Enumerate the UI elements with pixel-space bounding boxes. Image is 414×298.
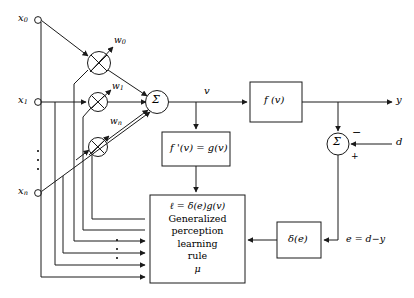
input-terminal-x1 [35,99,42,106]
perceptron-block-diagram: x0 x1 xn w0 w1 wn Σ v f (v) y − + Σ d e … [0,0,414,298]
input-terminal-x0 [35,17,42,24]
learning-rule-line-4: rule [150,250,245,263]
input-ellipsis [36,150,40,170]
error-summation-symbol: Σ [333,136,341,147]
activation-block-label: f (v) [264,95,284,105]
summation-symbol: Σ [152,94,160,105]
learning-rule-line-5: μ [150,263,245,276]
signal-label-v: v [204,86,210,96]
learning-rule-line-0: ℓ = δ(e)g(v) [150,200,245,213]
learning-rule-line-2: perception [150,225,245,238]
derivative-block-label: f '(v) = g(v) [170,143,228,153]
weight-label-w1: w1 [112,82,124,92]
feedback-ellipsis [115,239,119,259]
error-expression-label: e = d−y [346,234,385,244]
error-sum-minus-sign: − [352,127,361,138]
learning-rule-text: ℓ = δ(e)g(v) Generalized perception lear… [150,200,245,275]
wire-mult0-feedback-diag [74,70,88,84]
learning-rule-line-3: learning [150,238,245,251]
input-label-x0: x0 [18,13,28,24]
error-sum-plus-sign: + [351,152,359,161]
desired-label-d: d [396,137,402,147]
wire-x0-to-mult0 [42,21,89,57]
wire-xn-to-sum [42,112,151,192]
weight-label-w0: w0 [114,36,126,46]
input-label-x1: x1 [18,95,28,106]
learning-rule-line-1: Generalized [150,213,245,226]
weight-label-wn: wn [110,117,122,127]
input-terminal-xn [35,190,42,197]
delta-block-label: δ(e) [288,234,308,244]
output-label-y: y [396,95,402,105]
input-label-xn: xn [18,186,28,197]
wire-mult1-feedback-diag [83,109,90,117]
